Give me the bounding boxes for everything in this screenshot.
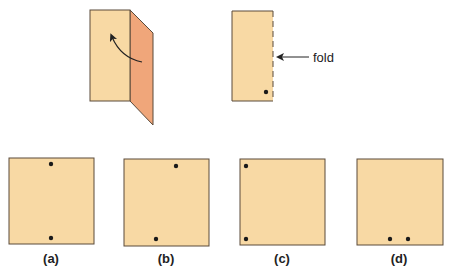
hole-dot [264,90,268,94]
paper-left-half [90,10,130,101]
option-label: (a) [43,251,59,266]
option-label: (d) [391,251,408,266]
hole-dot [406,237,410,241]
hole-dot [49,162,53,166]
step1-folding-paper [90,10,153,125]
option-label: (b) [158,251,175,266]
hole-dot [174,164,178,168]
step2-folded-paper: fold [232,11,334,101]
hole-dot [154,237,158,241]
option-c[interactable]: (c) [240,159,325,266]
option-a[interactable]: (a) [9,158,94,266]
option-d[interactable]: (d) [357,159,443,266]
option-b[interactable]: (b) [124,159,209,266]
paper-fold-diagram: fold (a) (b) (c) (d) [0,0,454,273]
fold-label: fold [313,50,334,65]
folded-paper [232,11,273,101]
option-label: (c) [274,251,290,266]
hole-dot [244,237,248,241]
flap [130,10,153,125]
hole-dot [49,236,53,240]
hole-dot [244,164,248,168]
hole-dot [388,237,392,241]
